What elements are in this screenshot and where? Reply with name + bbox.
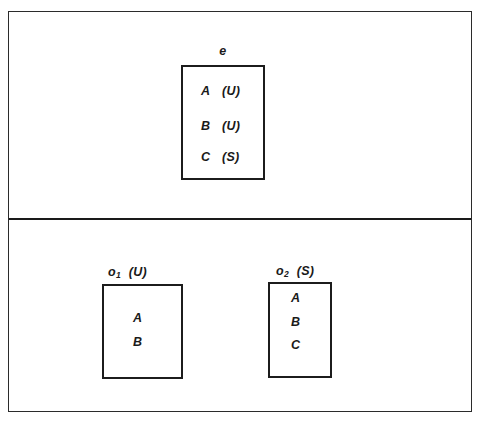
entity-member-tag: (U): [222, 119, 240, 133]
observation-member-label: A: [133, 311, 144, 325]
observation-member-row: C: [291, 338, 302, 352]
entity-box-caption: e: [181, 44, 265, 58]
observation-member-row: A: [133, 311, 144, 325]
observation-member-label: A: [291, 291, 302, 305]
observation-member-row: A: [291, 291, 302, 305]
entity-member-row: C(S): [201, 150, 240, 164]
entity-member-label: B: [201, 119, 212, 133]
observation-caption-symbol: o: [108, 265, 116, 279]
entity-member-tag: (U): [222, 84, 240, 98]
entity-member-label: A: [201, 84, 212, 98]
observation-box-o1: [102, 284, 183, 379]
entity-member-row: B(U): [201, 119, 240, 133]
observation-caption-tag: (U): [129, 265, 147, 279]
observation-member-label: B: [291, 315, 302, 329]
observation-caption-subscript: 2: [284, 269, 289, 279]
entity-member-row: A(U): [201, 84, 240, 98]
observation-member-label: C: [291, 338, 302, 352]
section-divider-line: [9, 218, 471, 220]
diagram-canvas: e A(U) B(U) C(S) o1(U) A B o2(S) A B C: [0, 0, 481, 423]
entity-member-label: C: [201, 150, 212, 164]
entity-caption-symbol: e: [219, 44, 226, 58]
observation-caption-tag: (S): [297, 264, 315, 278]
observation-box-caption-o1: o1(U): [108, 265, 147, 280]
entity-member-tag: (S): [222, 150, 240, 164]
observation-caption-subscript: 1: [116, 270, 121, 280]
observation-caption-symbol: o: [276, 264, 284, 278]
observation-member-label: B: [133, 335, 144, 349]
observation-member-row: B: [133, 335, 144, 349]
observation-box-caption-o2: o2(S): [276, 264, 314, 279]
observation-member-row: B: [291, 315, 302, 329]
